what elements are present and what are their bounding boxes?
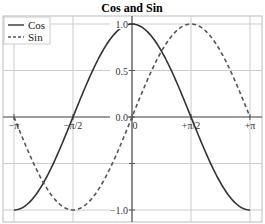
x-tick-label: −π bbox=[9, 120, 20, 131]
axes bbox=[3, 16, 262, 222]
chart-title: Cos and Sin bbox=[101, 1, 163, 15]
y-tick-label: 0.0 bbox=[116, 112, 129, 123]
y-tick-label: −1.0 bbox=[110, 205, 128, 216]
x-tick-label: −π/2 bbox=[64, 120, 82, 131]
cos-sin-chart: Cos and Sin −π−π/20+π/2+π−1.00.00.51.0 C… bbox=[0, 0, 265, 224]
legend: CosSin bbox=[4, 17, 50, 44]
x-tick-label: 0 bbox=[133, 120, 138, 131]
legend-item-cos: Cos bbox=[28, 19, 45, 31]
legend-item-sin: Sin bbox=[28, 31, 43, 43]
y-tick-label: 1.0 bbox=[116, 19, 129, 30]
x-tick-label: +π/2 bbox=[182, 120, 200, 131]
x-tick-label: +π bbox=[245, 120, 256, 131]
y-tick-label: 0.5 bbox=[116, 66, 129, 77]
